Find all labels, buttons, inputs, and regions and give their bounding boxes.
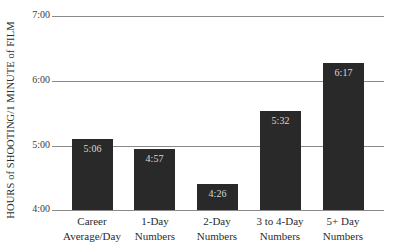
x-axis-baseline (52, 210, 384, 211)
bar-value-label: 4:57 (134, 153, 175, 164)
y-axis-label: HOURS of SHOOTING/1 MINUTE of FILM (5, 1, 19, 239)
bar-3-to-4-day: 5:32 (260, 111, 301, 210)
bar-chart: HOURS of SHOOTING/1 MINUTE of FILM 7:00 … (0, 0, 403, 249)
y-tick-6: 6:00 (22, 74, 50, 85)
bar-value-label: 4:26 (197, 188, 238, 199)
bar-career-average: 5:06 (72, 139, 113, 210)
gridline-7 (52, 16, 384, 17)
bar-value-label: 5:32 (260, 115, 301, 126)
y-tick-4: 4:00 (22, 203, 50, 214)
bar-2-day: 4:26 (197, 184, 238, 210)
x-category-5-plus-day: 5+ Day Numbers (303, 214, 383, 244)
x-category-line: 5+ Day (303, 214, 383, 229)
bar-5-plus-day: 6:17 (323, 63, 364, 210)
bar-value-label: 5:06 (72, 143, 113, 154)
bar-1-day: 4:57 (134, 149, 175, 210)
bar-value-label: 6:17 (323, 67, 364, 78)
y-tick-5: 5:00 (22, 139, 50, 150)
x-category-line: Numbers (303, 229, 383, 244)
y-tick-7: 7:00 (22, 9, 50, 20)
